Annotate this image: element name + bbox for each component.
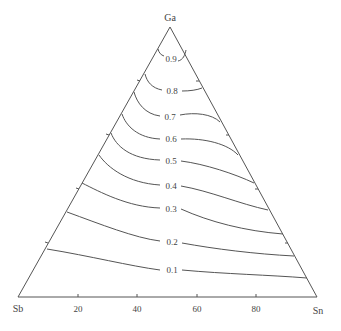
left-edge-ticks	[45, 80, 140, 243]
contour-0.2	[67, 212, 294, 256]
tick-label: 40	[133, 304, 143, 314]
contour-labels: 0.9 0.8 0.7 0.6 0.5 0.4 0.3 0.2 0.1	[164, 54, 178, 275]
contour-0.3	[82, 183, 283, 234]
tick-label: 60	[193, 304, 203, 314]
bottom-axis-labels: 20 40 60 80	[74, 304, 262, 314]
contour-label: 0.3	[165, 204, 177, 214]
tick-label: 80	[252, 304, 262, 314]
contour-0.5	[111, 133, 254, 183]
vertex-label-bottom-right: Sn	[313, 305, 324, 316]
contour-label: 0.9	[165, 54, 177, 64]
contour-label: 0.5	[165, 156, 177, 166]
vertex-label-top: Ga	[164, 12, 176, 23]
ternary-diagram: 0.9 0.8 0.7 0.6 0.5 0.4 0.3 0.2 0.1 Ga S…	[0, 0, 341, 331]
tick-label: 20	[74, 304, 84, 314]
contour-label: 0.7	[164, 112, 176, 122]
contour-label: 0.8	[166, 86, 178, 96]
contour-label: 0.4	[165, 181, 177, 191]
contour-label: 0.1	[166, 265, 177, 275]
vertex-label-bottom-left: Sb	[13, 303, 24, 314]
contour-label: 0.2	[166, 237, 177, 247]
contour-0.7	[134, 92, 220, 122]
contour-label: 0.6	[165, 134, 177, 144]
